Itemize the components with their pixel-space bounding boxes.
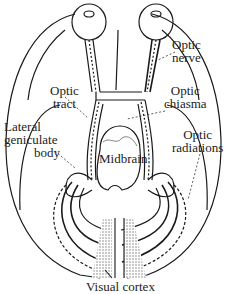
label-line: tract	[50, 97, 79, 110]
label-optic-tract: Optic tract	[50, 84, 79, 110]
label-line: radiations	[172, 141, 223, 154]
label-line: body	[4, 146, 60, 159]
label-line: chiasma	[164, 97, 207, 110]
label-optic-nerve: Optic nerve	[172, 38, 201, 64]
label-visual-cortex: Visual cortex	[86, 280, 155, 293]
label-line: nerve	[172, 51, 201, 64]
label-optic-radiations: Optic radiations	[172, 128, 223, 154]
label-optic-chiasma: Optic chiasma	[164, 84, 207, 110]
visual-cortex-left	[92, 218, 112, 278]
label-lateral-geniculate-body: Lateral geniculate body	[4, 120, 60, 159]
label-midbrain: Midbrain	[99, 152, 147, 165]
visual-pathway-diagram: Optic nerve Optic tract Optic chiasma La…	[0, 0, 227, 294]
